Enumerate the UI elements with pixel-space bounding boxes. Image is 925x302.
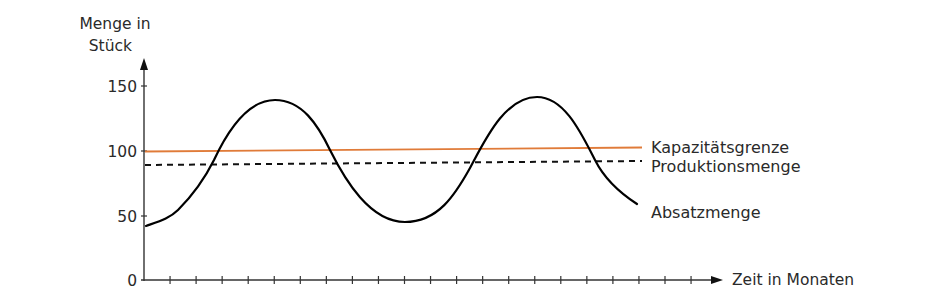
y-tick-label-0: 0 (127, 272, 137, 290)
x-axis-label: Zeit in Monaten (732, 271, 854, 289)
y-tick-label-50: 50 (117, 208, 137, 226)
production-line (145, 161, 642, 165)
x-ticks (170, 276, 691, 284)
legend-production: Produktionsmenge (651, 157, 801, 176)
y-axis-label-line1: Menge in (79, 15, 150, 33)
y-tick-label-100: 100 (107, 143, 137, 161)
y-tick-label-150: 150 (107, 78, 137, 96)
y-axis-label-line2: Stück (89, 37, 132, 55)
y-axis-arrow-icon (140, 58, 148, 70)
x-axis-arrow-icon (711, 276, 723, 284)
legend-sales: Absatzmenge (651, 203, 760, 222)
chart-canvas: Menge in Stück 150 100 50 0 Zeit in Mona… (0, 0, 925, 302)
legend-capacity: Kapazitätsgrenze (651, 138, 789, 157)
